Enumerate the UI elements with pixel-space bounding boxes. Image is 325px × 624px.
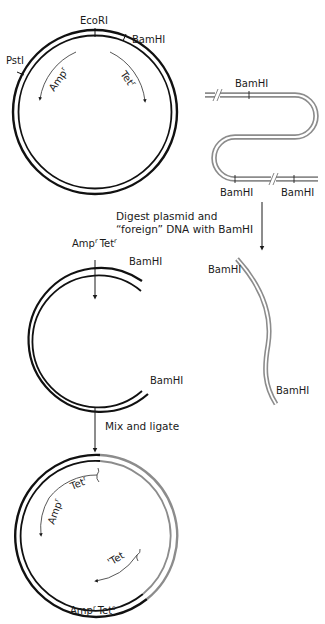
foreign-bamhi-label-2: BamHI — [220, 187, 253, 198]
fragment-bamhi-bottom-label: BamHI — [276, 385, 309, 396]
original-phenotype-label: AmprTetr — [72, 237, 117, 249]
recombinant-plasmid: Tetr Ampr 'Tet AmprTets — [15, 455, 177, 617]
foreign-bamhi-label-3: BamHI — [281, 187, 314, 198]
inserted-foreign-dna — [100, 455, 177, 599]
cloning-diagram: EcoRI BamHI PstI Ampr Tetr AmprTetr — [0, 0, 325, 624]
digest-step-line1: Digest plasmid and — [116, 210, 217, 222]
digest-step-line2: “foreign” DNA with BamHI — [116, 223, 253, 235]
foreign-fragment: BamHI BamHI — [208, 259, 309, 404]
ecori-label: EcoRI — [80, 15, 108, 26]
foreign-dna: BamHI BamHI BamHI — [205, 78, 318, 198]
tet-gene-label: Tetr — [118, 67, 138, 89]
cut-bamhi-bottom-label: BamHI — [150, 375, 183, 386]
linearized-plasmid: BamHI BamHI — [29, 256, 184, 412]
fragment-bamhi-top-label: BamHI — [208, 264, 241, 275]
bamhi-label: BamHI — [132, 34, 165, 45]
cut-bamhi-top-label: BamHI — [129, 256, 162, 267]
tet-upper-label: Tetr — [67, 474, 89, 492]
amp-gene-label: Ampr — [46, 65, 71, 93]
ligate-step-label: Mix and ligate — [105, 420, 179, 432]
foreign-bamhi-label-1: BamHI — [235, 78, 268, 89]
recombinant-phenotype-label: AmprTets — [70, 604, 116, 616]
tet-partial-label: 'Tet — [106, 550, 126, 568]
psti-label: PstI — [6, 55, 24, 66]
amp-recombinant-label: Ampr — [45, 497, 65, 525]
